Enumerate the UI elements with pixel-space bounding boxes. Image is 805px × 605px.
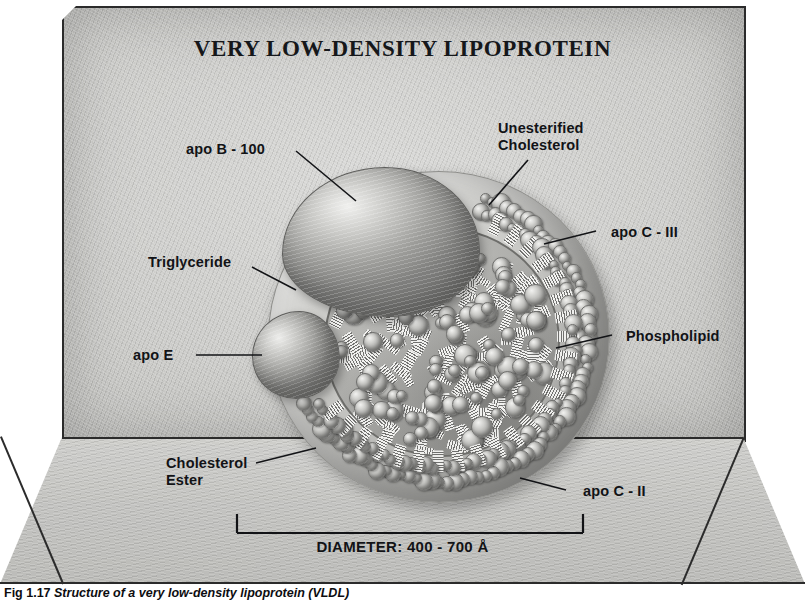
core-lipid-head [448,364,461,377]
apo-b100-protein [282,167,480,317]
core-lipid-head [475,366,489,380]
apo-e-protein [252,311,340,399]
core-lipid-head [528,337,544,353]
core-lipid-head [498,371,517,390]
core-lipid-head [354,399,373,418]
core-lipid-head [470,392,482,404]
caption-figure-number: Fig 1.17 [4,586,51,600]
label-unesterified-cholesterol-line2: Cholesterol [498,137,579,155]
core-lipid-head [452,396,469,413]
core-lipid-head [512,358,529,375]
phospholipid-head [584,323,597,336]
core-lipid-head [386,407,399,420]
core-lipid-head [405,411,419,425]
floor-bottom-edge [0,582,805,584]
figure-caption: Fig 1.17 Structure of a very low-density… [4,586,804,600]
label-cholesterol-ester-line2: Ester [166,472,203,490]
label-apo-c3: apo C - III [611,224,678,242]
label-phospholipid: Phospholipid [626,328,720,346]
phospholipid-head [313,398,325,410]
label-unesterified-cholesterol-line1: Unesterified [498,120,584,138]
diameter-label: DIAMETER: 400 - 700 Å [0,538,805,555]
label-triglyceride: Triglyceride [148,254,231,272]
figure-container: VERY LOW-DENSITY LIPOPROTEIN [0,0,805,605]
core-lipid-head [427,379,441,393]
core-lipid-head [471,416,493,438]
vldl-particle [258,163,613,508]
figure-title: VERY LOW-DENSITY LIPOPROTEIN [0,36,805,62]
label-apo-c2: apo C - II [583,483,646,501]
label-apo-b100: apo B - 100 [186,141,265,159]
core-lipid-head [396,390,407,401]
label-apo-e: apo E [133,347,173,365]
core-lipid-head [526,311,545,330]
core-lipid-head [356,373,374,391]
core-lipid-head [464,355,476,367]
core-lipid-head [495,279,511,295]
caption-text: Structure of a very low-density lipoprot… [54,586,349,600]
core-lipid-head [390,333,405,348]
core-lipid-head [501,327,516,342]
label-cholesterol-ester-line1: Cholesterol [166,455,247,473]
core-lipid-head [524,284,546,306]
apo-e-hatching [253,312,339,398]
apo-b100-hatching [283,168,479,316]
core-lipid-head [446,325,464,343]
core-lipid-head [513,394,525,406]
